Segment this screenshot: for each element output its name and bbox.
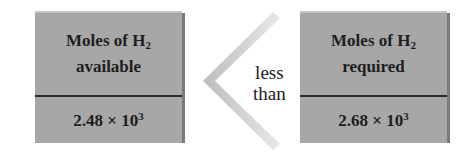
moles-required-box: Moles of H2 required 2.68 × 103 <box>300 13 447 143</box>
value-exponent: 3 <box>403 110 409 122</box>
value-mantissa: 2.48 × 10 <box>73 111 138 130</box>
moles-available-label: Moles of H2 available <box>35 13 182 94</box>
moles-available-value: 2.48 × 103 <box>35 97 182 143</box>
moles-required-value: 2.68 × 103 <box>300 97 447 143</box>
moles-available-box: Moles of H2 available 2.48 × 103 <box>35 13 182 143</box>
comparison-line1: less <box>253 62 286 83</box>
label-text: Moles of H <box>331 31 410 50</box>
subscript: 2 <box>145 39 151 51</box>
comparison-text: less than <box>253 62 286 104</box>
value-exponent: 3 <box>138 110 144 122</box>
label-line2: available <box>76 56 141 77</box>
value-mantissa: 2.68 × 10 <box>338 111 403 130</box>
comparison-line2: than <box>253 83 286 104</box>
subscript: 2 <box>410 39 416 51</box>
label-line2: required <box>342 56 405 77</box>
label-text: Moles of H <box>66 31 145 50</box>
moles-required-label: Moles of H2 required <box>300 13 447 94</box>
